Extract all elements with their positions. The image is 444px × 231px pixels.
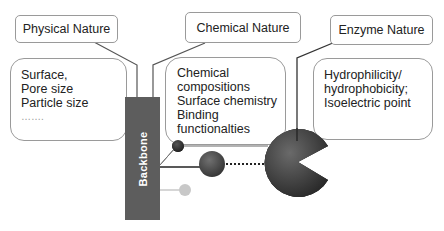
backbone-label: Backbone bbox=[137, 131, 149, 186]
physical-item: Particle size bbox=[21, 96, 116, 110]
physical-nature-details-box: Surface, Pore size Particle size ……. bbox=[10, 58, 127, 141]
enzyme-item: hydrophobicity; bbox=[324, 82, 422, 96]
chemical-nature-title: Chemical Nature bbox=[196, 21, 289, 35]
enzyme-nature-title: Enzyme Nature bbox=[338, 23, 424, 37]
enzyme-nature-details-box: Hydrophilicity/ hydrophobicity; Isoelect… bbox=[313, 58, 433, 140]
physical-item: Surface, bbox=[21, 68, 116, 82]
inactive-linker-circle bbox=[179, 184, 191, 196]
physical-nature-title: Physical Nature bbox=[23, 22, 111, 36]
enzyme-item: Hydrophilicity/ bbox=[324, 68, 422, 82]
chemical-nature-details-box: Chemical compositions Surface chemistry … bbox=[165, 57, 286, 145]
physical-item: Pore size bbox=[21, 82, 116, 96]
enzyme-item: Isoelectric point bbox=[324, 96, 422, 110]
physical-nature-title-box: Physical Nature bbox=[15, 15, 118, 43]
chemical-item: compositions bbox=[177, 80, 275, 94]
chemical-item: Surface chemistry bbox=[177, 94, 275, 108]
chemical-item: Chemical bbox=[177, 66, 275, 80]
chemical-item: functionalties bbox=[177, 122, 275, 136]
backbone-bar: Backbone bbox=[125, 97, 160, 220]
small-linker-line bbox=[160, 148, 175, 165]
chemical-item: Binding bbox=[177, 108, 275, 122]
enzyme-nature-title-box: Enzyme Nature bbox=[330, 15, 433, 45]
chemical-nature-title-box: Chemical Nature bbox=[185, 12, 301, 43]
medium-linker-circle bbox=[199, 151, 225, 177]
physical-item-ellipsis: ……. bbox=[21, 112, 116, 122]
